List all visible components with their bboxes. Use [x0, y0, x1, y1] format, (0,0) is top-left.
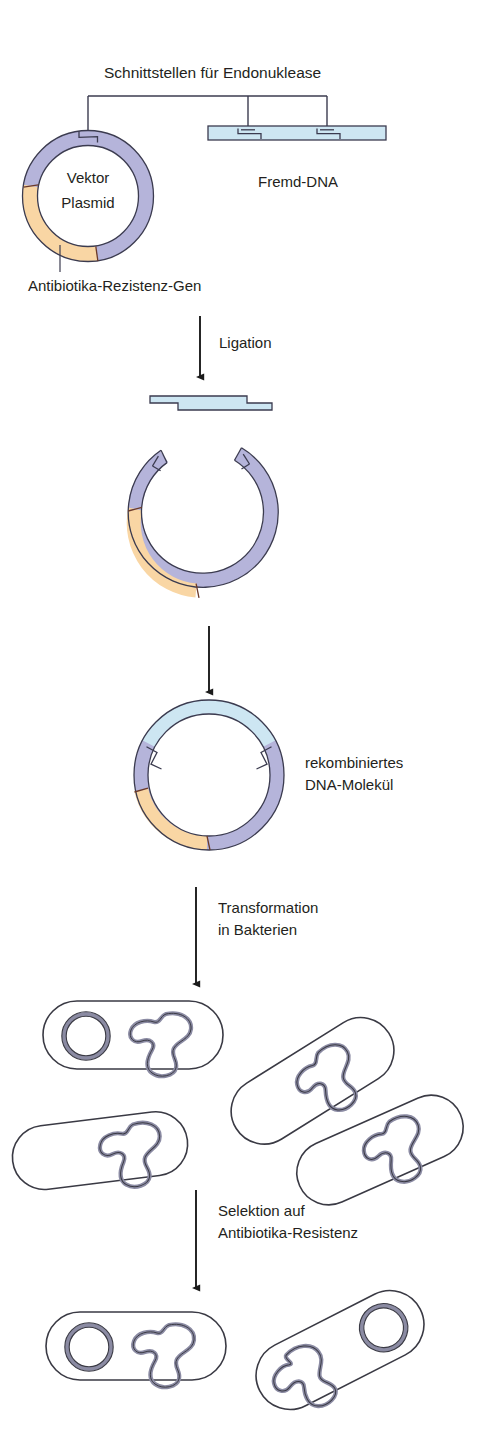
cut-foreign-dna-fragment: [150, 396, 272, 410]
bacterium-selected-1: [46, 1312, 226, 1387]
foreign-dna-fragment: [208, 126, 386, 140]
bacterium-transformed-2: [219, 1005, 411, 1163]
recombinant-label-line1: rekombiniertes: [305, 754, 403, 771]
plasmid-in-cell: [62, 1012, 110, 1060]
bacterium-transformed-3: [287, 1085, 477, 1223]
figure-root: Schnittstellen für Endonuklease Vektor P…: [0, 0, 492, 1448]
bacterium-transformed-1: [43, 1001, 223, 1076]
endonuclease-sites-label: Schnittstellen für Endonuklease: [104, 64, 321, 81]
chromosome-in-cell: [97, 1121, 165, 1191]
chromosome-in-cell: [288, 1039, 373, 1125]
plasmid-in-cell: [351, 1295, 416, 1360]
vector-plasmid: Vektor Plasmid: [23, 131, 154, 262]
vector-label-line1: Vektor: [67, 169, 110, 186]
opened-vector-plasmid: [128, 448, 278, 598]
chromosome-in-cell: [130, 1013, 191, 1076]
cloning-diagram: Schnittstellen für Endonuklease Vektor P…: [0, 0, 492, 1448]
bacterium-selected-2: [244, 1279, 439, 1428]
plasmid-in-cell: [65, 1323, 113, 1371]
selection-label-line2: Antibiotika-Resistenz: [218, 1224, 358, 1241]
chromosome-in-cell: [264, 1340, 342, 1422]
recombinant-label-line2: DNA-Molekül: [305, 776, 393, 793]
chromosome-in-cell: [356, 1111, 437, 1193]
selection-label-line1: Selektion auf: [218, 1202, 306, 1219]
transformation-label-line2: in Bakterien: [218, 921, 297, 938]
recombinant-dna-molecule: [134, 700, 284, 850]
bacterium-transformed-4: [9, 1108, 192, 1201]
ligation-label: Ligation: [219, 334, 272, 351]
foreign-dna-label: Fremd-DNA: [258, 173, 338, 190]
transformation-label-line1: Transformation: [218, 899, 318, 916]
antibiotic-resistance-gene-label: Antibiotika-Rezistenz-Gen: [28, 277, 201, 294]
vector-label-line2: Plasmid: [61, 194, 114, 211]
chromosome-in-cell: [133, 1324, 194, 1387]
